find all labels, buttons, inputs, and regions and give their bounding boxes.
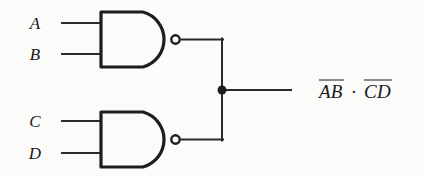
nand-gate-bottom[interactable] bbox=[62, 112, 223, 167]
nand-top-body bbox=[101, 12, 164, 67]
nand-bottom-body bbox=[101, 112, 164, 167]
nand-top-inversion-bubble bbox=[171, 35, 179, 43]
input-label-a: A bbox=[30, 15, 41, 32]
input-label-b: B bbox=[30, 46, 41, 63]
junction-dot bbox=[218, 86, 227, 95]
output-term-ab-complement: AB bbox=[319, 80, 343, 101]
input-label-d: D bbox=[29, 145, 41, 162]
logic-circuit-diagram: A B C D AB · CD bbox=[0, 0, 423, 176]
output-expression: AB · CD bbox=[319, 80, 391, 101]
output-and-operator: · bbox=[343, 82, 364, 101]
output-term-cd-complement: CD bbox=[364, 80, 391, 101]
nand-gate-top[interactable] bbox=[62, 12, 223, 67]
nand-bottom-inversion-bubble bbox=[171, 135, 179, 143]
input-label-c: C bbox=[29, 113, 41, 130]
